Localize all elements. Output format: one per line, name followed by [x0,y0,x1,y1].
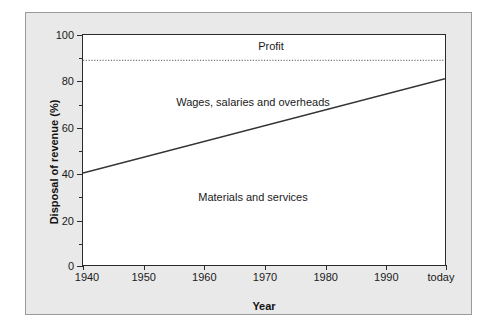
y-tick-10 [79,244,83,245]
y-tick-label-100: 100 [56,30,74,41]
x-tick-1980 [326,265,327,270]
x-tick-1960 [204,265,205,270]
y-tick-50 [79,151,83,152]
x-tick-1970 [265,265,266,270]
chart-screenshot: Disposal of revenue (%) Year 100 [0,0,497,331]
x-tick-1940 [83,265,84,270]
region-label-materials: Materials and services [198,192,307,203]
x-tick-label-1960: 1960 [192,272,216,283]
y-tick-30 [79,197,83,198]
y-tick-40 [77,174,83,175]
y-tick-label-20: 20 [62,215,74,226]
region-label-wages: Wages, salaries and overheads [176,97,330,108]
y-tick-60 [77,128,83,129]
x-tick-label-1990: 1990 [374,272,398,283]
x-tick-label-1950: 1950 [131,272,155,283]
y-tick-label-0: 0 [68,261,74,272]
figure-panel: Disposal of revenue (%) Year 100 [25,12,472,315]
y-tick-70 [79,105,83,106]
x-tick-1990 [386,265,387,270]
y-tick-label-80: 80 [62,76,74,87]
x-tick-label-1940: 1940 [75,272,99,283]
region-label-profit: Profit [258,41,284,52]
y-tick-80 [77,81,83,82]
y-tick-20 [77,221,83,222]
plot-canvas [83,35,445,265]
x-tick-today [446,265,447,270]
materials-boundary-line [83,79,445,173]
x-tick-label-today: today [428,272,455,283]
y-tick-100 [77,35,83,36]
plot-area: 100 80 60 40 20 0 1940 1950 1960 1970 19… [82,34,446,266]
x-tick-label-1980: 1980 [313,272,337,283]
y-tick-label-40: 40 [62,169,74,180]
y-tick-label-60: 60 [62,122,74,133]
y-tick-90 [79,58,83,59]
x-tick-1950 [144,265,145,270]
y-axis-title: Disposal of revenue (%) [49,100,60,225]
x-tick-label-1970: 1970 [253,272,277,283]
x-axis-title: Year [252,301,275,312]
